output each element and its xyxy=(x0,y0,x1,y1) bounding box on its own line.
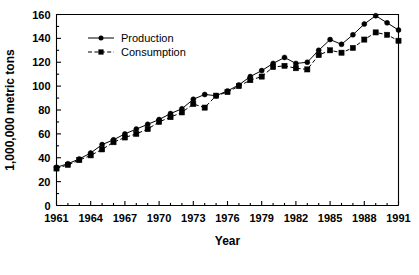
x-tick-label: 1973 xyxy=(181,212,205,224)
data-point-circle xyxy=(316,48,321,53)
x-tick-label: 1970 xyxy=(147,212,171,224)
data-point-circle xyxy=(134,127,139,132)
data-point-circle xyxy=(202,92,207,97)
x-tick-label: 1979 xyxy=(249,212,273,224)
data-point-square xyxy=(236,84,241,89)
data-point-square xyxy=(134,131,139,136)
y-tick-label: 40 xyxy=(38,152,50,164)
data-point-circle xyxy=(259,68,264,73)
y-tick-label: 100 xyxy=(32,80,50,92)
x-tick-label: 1985 xyxy=(318,212,342,224)
legend-label-production: Production xyxy=(121,32,174,44)
data-point-circle xyxy=(396,28,401,33)
data-point-circle xyxy=(293,61,298,66)
data-point-square xyxy=(248,78,253,83)
data-point-circle xyxy=(350,32,355,37)
data-point-square xyxy=(339,50,344,55)
x-tick-label: 1964 xyxy=(78,212,103,224)
data-point-square xyxy=(202,105,207,110)
data-point-circle xyxy=(191,97,196,102)
x-axis-title: Year xyxy=(215,234,241,248)
chart-background xyxy=(0,0,419,275)
y-tick-label: 60 xyxy=(38,128,50,140)
data-point-square xyxy=(328,48,333,53)
y-tick-label: 140 xyxy=(32,32,50,44)
data-point-circle xyxy=(305,60,310,65)
y-tick-label: 20 xyxy=(38,176,50,188)
data-point-square xyxy=(271,64,276,69)
legend-marker-square xyxy=(98,49,103,54)
data-point-square xyxy=(191,101,196,106)
data-point-square xyxy=(77,158,82,163)
data-point-square xyxy=(385,32,390,37)
data-point-square xyxy=(179,110,184,115)
y-tick-label: 120 xyxy=(32,56,50,68)
data-point-square xyxy=(145,127,150,132)
data-point-square xyxy=(100,147,105,152)
data-point-square xyxy=(157,119,162,124)
data-point-square xyxy=(293,66,298,71)
data-point-square xyxy=(168,115,173,120)
y-tick-label: 160 xyxy=(32,9,50,21)
data-point-circle xyxy=(362,22,367,27)
x-tick-label: 1961 xyxy=(44,212,68,224)
data-point-square xyxy=(54,166,59,171)
data-point-square xyxy=(316,52,321,57)
data-point-square xyxy=(362,37,367,42)
data-point-square xyxy=(282,63,287,68)
x-tick-label: 1967 xyxy=(113,212,137,224)
data-point-square xyxy=(373,30,378,35)
x-tick-label: 1988 xyxy=(352,212,376,224)
data-point-square xyxy=(396,38,401,43)
data-point-circle xyxy=(339,42,344,47)
data-point-circle xyxy=(282,55,287,60)
legend-label-consumption: Consumption xyxy=(121,46,186,58)
x-tick-label: 1982 xyxy=(284,212,308,224)
x-tick-label: 1991 xyxy=(386,212,410,224)
line-chart: 020406080100120140160 196119641967197019… xyxy=(0,0,419,275)
data-point-circle xyxy=(373,13,378,18)
data-point-square xyxy=(88,153,93,158)
data-point-square xyxy=(259,74,264,79)
y-tick-label: 0 xyxy=(44,200,50,212)
x-tick-label: 1976 xyxy=(215,212,239,224)
y-tick-label: 80 xyxy=(38,104,50,116)
data-point-square xyxy=(111,140,116,145)
data-point-circle xyxy=(145,122,150,127)
data-point-square xyxy=(350,45,355,50)
data-point-square xyxy=(122,135,127,140)
data-point-square xyxy=(305,67,310,72)
data-point-circle xyxy=(100,142,105,147)
data-point-square xyxy=(214,93,219,98)
data-point-circle xyxy=(385,20,390,25)
legend-marker-circle xyxy=(99,36,104,41)
x-axis-tick-labels: 1961196419671970197319761979198219851988… xyxy=(44,212,410,224)
y-axis-title: 1,000,000 metric tons xyxy=(3,49,17,171)
data-point-circle xyxy=(328,37,333,42)
data-point-square xyxy=(225,89,230,94)
data-point-square xyxy=(65,162,70,167)
chart-figure: 020406080100120140160 196119641967197019… xyxy=(0,0,419,275)
